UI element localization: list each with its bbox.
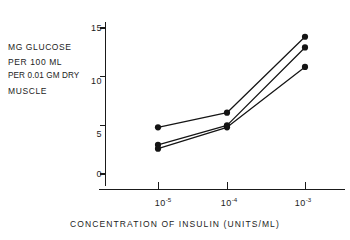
- x-axis-label: CONCENTRATION OF INSULIN (UNITS/ML): [0, 219, 350, 229]
- x-tick-mantissa-1: 10: [155, 198, 166, 208]
- data-point-s3-x2: [224, 124, 230, 130]
- x-tick-exponent-3: -3: [306, 196, 312, 203]
- y-tick-label-15: 15: [80, 23, 102, 33]
- series-line-2: [158, 47, 305, 144]
- chart-figure: MG GLUCOSE PER 100 ML PER 0.01 GM DRY MU…: [0, 0, 350, 240]
- x-tick-label-1: 10-5: [143, 196, 183, 208]
- data-point-s3-x3: [302, 64, 308, 70]
- series-lines: [158, 37, 305, 149]
- data-point-s1-x2: [224, 110, 230, 116]
- x-axis-ticks: [159, 182, 306, 190]
- data-point-s3-x1: [155, 146, 161, 152]
- series-markers: [155, 34, 308, 152]
- y-tick-label-0: 0: [80, 169, 102, 179]
- x-tick-mantissa-2: 10: [221, 198, 232, 208]
- data-point-s1-x3: [302, 34, 308, 40]
- x-tick-label-3: 10-3: [283, 196, 323, 208]
- data-point-s2-x3: [302, 44, 308, 50]
- x-tick-label-2: 10-4: [209, 196, 249, 208]
- data-point-s1-x1: [155, 124, 161, 130]
- y-axis-label: MG GLUCOSE PER 100 ML PER 0.01 GM DRY MU…: [8, 40, 104, 98]
- x-tick-mantissa-3: 10: [295, 198, 306, 208]
- x-tick-exponent-1: -5: [166, 196, 172, 203]
- x-tick-exponent-2: -4: [232, 196, 238, 203]
- y-tick-label-5: 5: [80, 129, 102, 139]
- y-tick-label-10: 10: [80, 76, 102, 86]
- y-axis-label-line-1: MG GLUCOSE: [8, 40, 104, 55]
- series-line-1: [158, 37, 305, 128]
- y-axis-label-line-2: PER 100 ML: [8, 55, 104, 70]
